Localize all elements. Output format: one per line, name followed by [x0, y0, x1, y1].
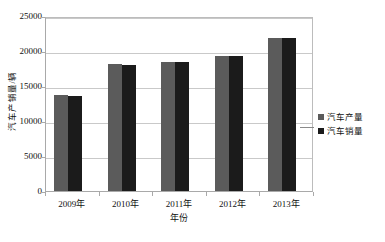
bar-group: [100, 18, 154, 191]
bar-group: [207, 18, 261, 191]
chart-legend: 汽车产量汽车销量: [318, 110, 384, 138]
legend-label: 汽车产量: [327, 112, 363, 122]
x-axis-tick-label: 2011年: [149, 197, 209, 210]
x-axis-tick-label: 2010年: [95, 197, 155, 210]
y-axis-tick-mark: [41, 87, 45, 88]
y-axis-tick-mark: [41, 52, 45, 53]
plot-area: [45, 17, 313, 192]
y-axis-tick-label: 25000: [6, 12, 42, 21]
bar-production: [161, 62, 175, 191]
y-axis-tick-label: 5000: [6, 152, 42, 161]
x-axis-tick-mark: [152, 192, 153, 196]
x-axis-tick-mark: [313, 192, 314, 196]
y-axis-tick-mark: [41, 122, 45, 123]
x-axis-tick-mark: [259, 192, 260, 196]
legend-item: 汽车销量: [318, 124, 384, 138]
bar-production: [108, 64, 122, 191]
bar-sales: [175, 62, 189, 192]
x-axis-tick-label: 2013年: [256, 197, 316, 210]
x-axis-tick-label: 2009年: [42, 197, 102, 210]
bar-sales: [68, 96, 82, 191]
bar-sales: [282, 38, 296, 191]
legend-swatch-icon: [318, 128, 324, 134]
bar-group: [260, 18, 314, 191]
bar-production: [268, 38, 282, 191]
y-axis-tick-label: 20000: [6, 47, 42, 56]
bar-sales: [122, 65, 136, 191]
y-axis-tick-label: 0: [6, 187, 42, 196]
y-axis-tick-label: 10000: [6, 117, 42, 126]
bar-production: [54, 95, 68, 191]
bar-production: [215, 56, 229, 191]
legend-item: 汽车产量: [318, 110, 384, 124]
bar-sales: [229, 56, 243, 191]
x-axis-tick-label: 2012年: [203, 197, 263, 210]
top-caption: [60, 0, 325, 4]
x-axis-tick-mark: [45, 192, 46, 196]
bar-group: [46, 18, 100, 191]
y-axis-tick-mark: [41, 157, 45, 158]
x-axis-tick-mark: [206, 192, 207, 196]
legend-swatch-icon: [318, 114, 324, 120]
bar-chart: 汽车产销量/辆 0500010000150002000025000 2009年2…: [0, 0, 385, 242]
bars-layer: [46, 18, 312, 191]
legend-leader-line: [300, 127, 314, 128]
y-axis-tick-label: 15000: [6, 82, 42, 91]
x-axis-title: 年份: [45, 211, 313, 224]
y-axis-tick-mark: [41, 17, 45, 18]
bar-group: [153, 18, 207, 191]
y-axis-tick-mark: [41, 192, 45, 193]
legend-label: 汽车销量: [327, 126, 363, 136]
x-axis-tick-mark: [99, 192, 100, 196]
y-axis-tick-labels: 0500010000150002000025000: [0, 0, 42, 242]
